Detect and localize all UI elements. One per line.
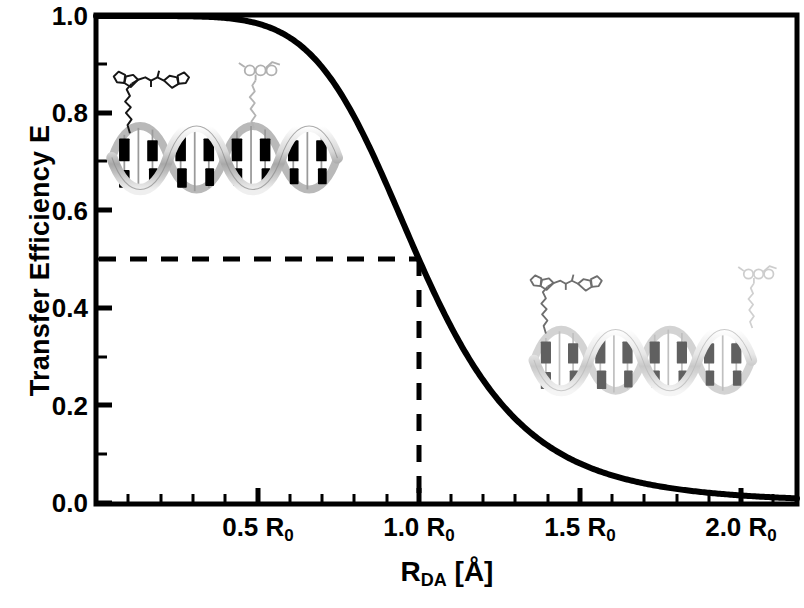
acceptor-dye-icon bbox=[114, 71, 189, 133]
dna-donor-acceptor-close-illustration bbox=[112, 62, 337, 191]
donor-dye-icon-far bbox=[738, 266, 776, 328]
donor-dye-icon bbox=[239, 62, 280, 128]
half-efficiency-guide bbox=[99, 259, 419, 503]
fret-efficiency-chart: Transfer Efficiency E 1.0 0.8 0.6 0.4 0.… bbox=[0, 0, 804, 608]
dna-donor-acceptor-far-illustration bbox=[531, 266, 777, 392]
plot-canvas bbox=[0, 0, 804, 608]
acceptor-dye-icon-far bbox=[531, 275, 602, 334]
